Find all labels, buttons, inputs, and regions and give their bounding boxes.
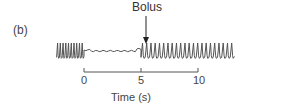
time-axis <box>84 68 198 72</box>
bolus-arrow-icon <box>143 16 149 44</box>
x-axis-label: Time (s) <box>111 91 151 103</box>
figure: (b) Bolus 0 5 10 Time (s) <box>0 0 284 110</box>
x-tick-10: 10 <box>193 74 205 86</box>
panel-label: (b) <box>13 23 28 37</box>
x-tick-0: 0 <box>81 74 87 86</box>
waveform-trace <box>57 43 235 58</box>
bolus-annotation: Bolus <box>132 0 162 14</box>
x-tick-5: 5 <box>138 74 144 86</box>
